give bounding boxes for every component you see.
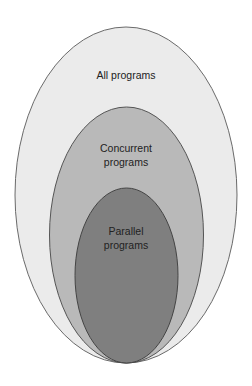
concurrent-programs-label-line2: programs — [104, 156, 148, 168]
concurrent-programs-label-line1: Concurrent — [100, 142, 152, 154]
parallel-programs-label-line1: Parallel — [108, 225, 143, 237]
parallel-programs-ellipse — [75, 188, 178, 363]
all-programs-label: All programs — [97, 69, 156, 81]
nested-programs-diagram: All programs Concurrent programs Paralle… — [0, 0, 252, 386]
parallel-programs-label-line2: programs — [104, 239, 148, 251]
set-parallel-programs: Parallel programs — [75, 188, 178, 363]
